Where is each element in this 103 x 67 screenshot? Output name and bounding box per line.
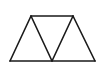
diagram-segments	[10, 16, 95, 61]
left-edge	[10, 16, 31, 61]
inner-left-diagonal	[31, 16, 52, 61]
trapezoid-diagram	[0, 0, 103, 67]
right-edge	[73, 16, 95, 61]
inner-right-diagonal	[52, 16, 73, 61]
